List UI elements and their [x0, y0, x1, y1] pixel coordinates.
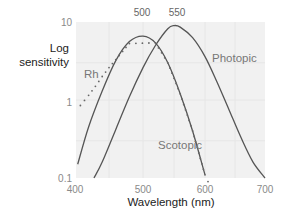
- series-rh-point: [183, 104, 185, 106]
- annotation-photopic: Photopic: [212, 52, 257, 64]
- series-rh-point: [122, 51, 124, 53]
- x-tick-label: 600: [197, 184, 214, 195]
- series-rh-point: [185, 109, 187, 111]
- series-rh-point: [95, 85, 97, 87]
- series-rh-point: [190, 125, 192, 127]
- series-rh-point: [181, 98, 183, 100]
- series-rh-point: [179, 93, 181, 95]
- series-rh-point: [169, 67, 171, 69]
- x-axis-title: Wavelength (nm): [127, 196, 214, 208]
- y-tick-label: 10: [61, 17, 73, 28]
- series-rh-point: [108, 67, 110, 69]
- series-rh-point: [148, 42, 150, 44]
- series-rh-point: [91, 90, 93, 92]
- series-rh-point: [164, 57, 166, 59]
- series-rh-point: [161, 52, 163, 54]
- series-rh-point: [177, 88, 179, 90]
- series-rh-point: [105, 71, 107, 73]
- series-rh-point: [193, 136, 195, 138]
- series-rh-point: [88, 94, 90, 96]
- series-rh-point: [112, 63, 114, 65]
- x-tick-label: 400: [67, 184, 84, 195]
- y-tick-label: 1: [66, 97, 72, 108]
- y-axis-title-line2: sensitivity: [19, 56, 69, 68]
- series-rh-point: [186, 114, 188, 116]
- series-rh-point: [125, 47, 127, 49]
- series-rh-point: [142, 42, 144, 44]
- series-rh-point: [175, 83, 177, 85]
- series-rh-point: [155, 42, 157, 44]
- series-rh-point: [188, 120, 190, 122]
- series-rh-point: [198, 152, 200, 154]
- chart: 10 1 0.1 400 500 600 700 500 550 Log sen…: [0, 0, 289, 215]
- y-tick-label: 0.1: [58, 173, 72, 184]
- x-tick-label: 500: [135, 184, 152, 195]
- series-rh-point: [80, 105, 82, 107]
- series-rh-point: [101, 76, 103, 78]
- series-rh-point: [84, 100, 86, 102]
- series-rh-point: [135, 42, 137, 44]
- series-rh-point: [118, 55, 120, 57]
- series-rh-point: [98, 81, 100, 83]
- annotation-rh: Rh: [84, 68, 99, 80]
- peak-label-photopic: 550: [169, 7, 186, 18]
- series-rh-point: [158, 47, 160, 49]
- x-tick-label: 700: [257, 184, 274, 195]
- series-rh-point: [173, 77, 175, 79]
- series-rh-point: [203, 168, 205, 170]
- series-rh-point: [204, 174, 206, 176]
- series-rh-point: [192, 130, 194, 132]
- series-rh-point: [199, 158, 201, 160]
- annotation-scotopic: Scotopic: [158, 139, 202, 151]
- series-rh-point: [129, 43, 131, 45]
- y-axis-title-line1: Log: [50, 42, 69, 54]
- series-rh-point: [171, 72, 173, 74]
- series-rh-point: [201, 163, 203, 165]
- series-rh-point: [167, 62, 169, 64]
- series-rh-point: [207, 181, 209, 183]
- series-rh-point: [115, 59, 117, 61]
- peak-label-scotopic: 500: [134, 7, 151, 18]
